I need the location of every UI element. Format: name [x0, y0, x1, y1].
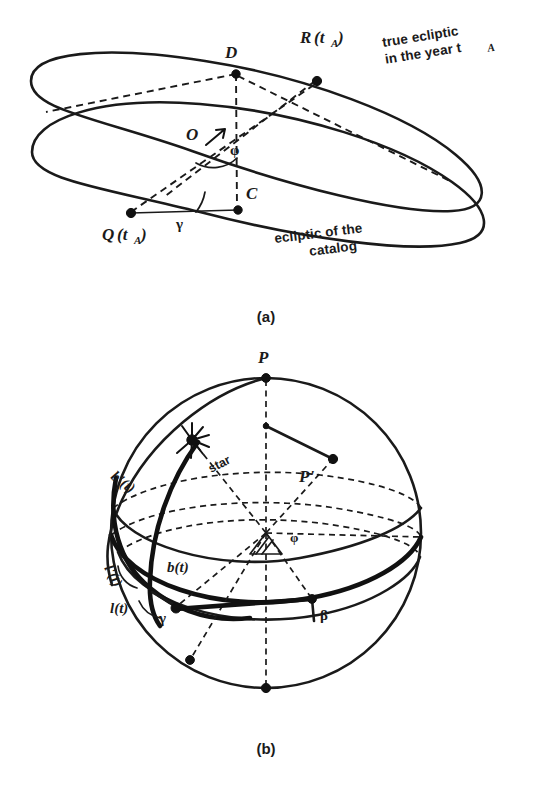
panel-a: D C O R (t A ) Q (t A ) φ γ true eclipti… [0, 0, 533, 345]
label-point-Q: Q (t A ) [102, 225, 147, 246]
catalog-ecliptic-ellipse [32, 102, 484, 246]
svg-text:): ) [139, 225, 147, 244]
panel-a-angle-arcs [196, 158, 237, 212]
point-O-marker [206, 129, 225, 145]
point-D-marker [232, 70, 240, 78]
label-catalog-ecliptic: ecliptic of the catalog [274, 220, 366, 263]
svg-text:Q: Q [102, 225, 114, 244]
point-R-marker [312, 76, 321, 85]
panel-a-caption: (a) [257, 308, 275, 325]
label-l-t: l(t) [110, 600, 128, 617]
label-point-D: D [224, 43, 237, 62]
point-P-marker [262, 374, 271, 383]
point-lower-left-marker [186, 656, 195, 665]
panel-b-nodes [171, 374, 338, 693]
panel-b-svg: P P' star b'(t) b(t) l'(t) l(t) γ β φ (b… [0, 330, 533, 791]
point-Q-marker [126, 208, 135, 217]
svg-text:A: A [485, 41, 495, 54]
label-phi-b: φ [290, 530, 298, 545]
label-b-t: b(t) [167, 559, 189, 576]
svg-text:): ) [336, 28, 344, 47]
point-south-pole-marker [261, 683, 270, 692]
label-angle-gamma: γ [175, 216, 183, 232]
panel-b-caption: (b) [256, 740, 275, 757]
svg-text:(t: (t [117, 225, 129, 244]
label-star: star [206, 453, 233, 476]
label-beta: β [320, 607, 328, 623]
svg-text:catalog: catalog [308, 238, 357, 259]
node-line-QC [131, 210, 238, 213]
label-point-R: R (t A ) [299, 28, 344, 49]
label-l-prime-t: l'(t) [100, 562, 126, 590]
point-gamma-node-marker [171, 603, 181, 613]
label-point-O: O [186, 125, 198, 144]
label-point-C: C [246, 184, 258, 203]
label-gamma-b: γ [158, 610, 166, 626]
point-C-marker [234, 206, 242, 214]
figure-root: D C O R (t A ) Q (t A ) φ γ true eclipti… [0, 0, 533, 791]
svg-text:R: R [299, 28, 311, 47]
svg-text:star: star [206, 453, 233, 476]
point-star-marker [187, 435, 197, 445]
svg-text:l'(t): l'(t) [100, 562, 126, 590]
svg-text:(t: (t [314, 28, 326, 47]
panel-b: P P' star b'(t) b(t) l'(t) l(t) γ β φ (b… [0, 330, 533, 791]
point-P-prime-marker [328, 454, 337, 463]
panel-a-svg: D C O R (t A ) Q (t A ) φ γ true eclipti… [0, 0, 533, 345]
label-true-ecliptic: true ecliptic in the year t A [381, 18, 495, 70]
point-beta-foot-marker [308, 595, 317, 604]
panel-b-meridians [107, 378, 266, 626]
label-angle-phi: φ [230, 142, 239, 158]
label-pole-P: P [257, 348, 269, 367]
point-meridian-tick-marker [263, 423, 269, 429]
label-pole-P-prime: P' [298, 467, 314, 486]
